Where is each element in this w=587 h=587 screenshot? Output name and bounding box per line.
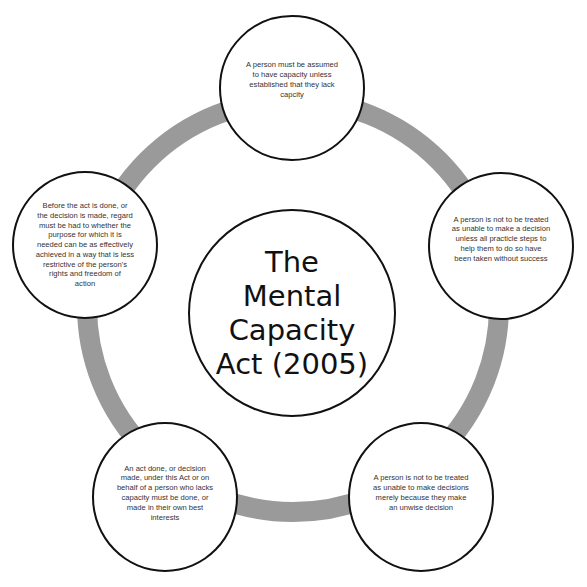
text-line: An act done, or decision [117,464,213,474]
text-line: help them to do so have [452,244,550,254]
text-line: unless all practicle steps to [452,234,550,244]
text-line: as unable to make a decision [452,224,550,234]
text-line: A person must be assumed [246,60,338,70]
text-line: achieved in a way that is less [36,250,134,260]
text-line: the decision is made, regard [36,211,134,221]
principle-unwise-decisions: A person is not to be treated as unable … [348,422,494,572]
text-line: been taken without success [452,254,550,264]
text-line: A person is not to be treated [373,473,469,483]
text-line: an unwise decision [373,503,469,513]
text-line: must be had to whether the [36,221,134,231]
text-line: needed can be as effectively [36,240,134,250]
text-line: interests [117,513,213,523]
text-line: made in their own best [117,503,213,513]
text-line: action [36,279,134,289]
principle-support-to-decide: A person is not to be treated as unable … [428,172,574,320]
text-line: made, under this Act or on [117,473,213,483]
principle-presumption-of-capacity: A person must be assumed to have capacit… [219,15,365,161]
text-line: rights and freedom of [36,269,134,279]
center-title-circle: The Mental Capacity Act (2005) [188,209,396,417]
principle-text: A person is not to be treated as unable … [440,215,562,264]
text-line: behalf of a person who lacks [117,483,213,493]
text-line: to have capacity unless [246,70,338,80]
text-line: established that they lack [246,80,338,90]
principle-least-restrictive: Before the act is done, or the decision … [12,171,158,319]
principle-text: A person must be assumed to have capacit… [234,60,350,99]
principle-text: An act done, or decision made, under thi… [105,464,225,523]
center-title-line: Capacity [216,313,368,347]
text-line: capcity [246,90,338,100]
text-line: capacity must be done, or [117,493,213,503]
text-line: Before the act is done, or [36,201,134,211]
center-title-line: Act (2005) [216,347,368,381]
text-line: as unable to make decisions [373,483,469,493]
text-line: A person is not to be treated [452,215,550,225]
principle-text: A person is not to be treated as unable … [361,473,481,512]
text-line: merely because they make [373,493,469,503]
center-title-line: Mental [216,279,368,313]
center-title-line: The [216,245,368,279]
text-line: restrictive of the person's [36,260,134,270]
center-title: The Mental Capacity Act (2005) [216,245,368,381]
principle-text: Before the act is done, or the decision … [28,201,142,289]
principle-best-interests: An act done, or decision made, under thi… [92,422,238,572]
text-line: purpose for which it is [36,230,134,240]
